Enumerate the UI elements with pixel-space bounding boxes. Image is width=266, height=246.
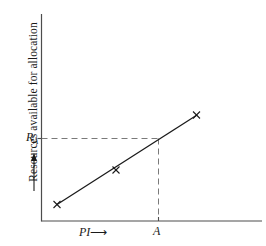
x-axis-arrow-icon: ⟶ bbox=[90, 225, 106, 239]
data-point-marker bbox=[193, 112, 200, 119]
y-axis-label: Resources available for allocation bbox=[27, 7, 39, 197]
ra-label-subscript: A bbox=[33, 137, 38, 146]
data-point-marker bbox=[54, 201, 61, 208]
x-axis-label: PI⟶ bbox=[79, 225, 106, 240]
chart-figure: Resources available for allocation RA PI… bbox=[0, 0, 266, 246]
y-axis-tick-label-ra: RA bbox=[26, 130, 38, 146]
chart-plot-area bbox=[0, 0, 266, 246]
data-trend-line bbox=[57, 115, 197, 205]
x-axis-label-text: PI bbox=[79, 225, 90, 239]
x-axis-tick-label-a: A bbox=[153, 224, 160, 239]
